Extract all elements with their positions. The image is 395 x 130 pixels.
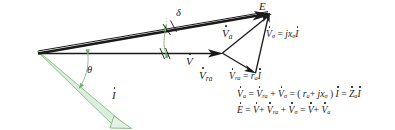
phasor-diagram-figure: E V Va Vra I δ θ Vσ = jxσI Vra = raI Va … [0, 0, 395, 130]
label-armature-voltage: Va [222, 28, 232, 40]
reactance-drop-vector [256, 13, 270, 73]
emf-vector-shaft [38, 14, 268, 54]
current-phasor-vector [38, 52, 132, 129]
equation-reactance-drop: Vσ = jxσI [266, 29, 298, 40]
current-vector-shaft [38, 52, 123, 127]
label-terminal-voltage: V [186, 56, 193, 67]
angle-delta-indicator [162, 18, 167, 58]
label-angle-theta: θ [87, 65, 92, 76]
equation-resistance-drop: Vra = raI [229, 71, 261, 82]
emf-phasor-vector [38, 11, 272, 54]
label-resistance-drop: Vra [199, 70, 212, 82]
label-angle-delta: δ [176, 8, 181, 19]
equation-emf: E = V+ Vra + Vσ = V+ Va [237, 105, 330, 116]
equation-armature-voltage: Va = Vra + Vσ = ( ra+ jxσ ) I = ZaI [237, 89, 361, 100]
label-current: I [112, 90, 116, 101]
terminal-voltage-vector [38, 49, 224, 57]
label-emf: E [259, 1, 266, 12]
emf-vector-upper-edge [38, 12, 268, 51]
reactance-drop-shaft [256, 18, 269, 73]
current-vector-arrowhead [110, 116, 132, 129]
phasor-diagram-canvas [0, 0, 395, 130]
